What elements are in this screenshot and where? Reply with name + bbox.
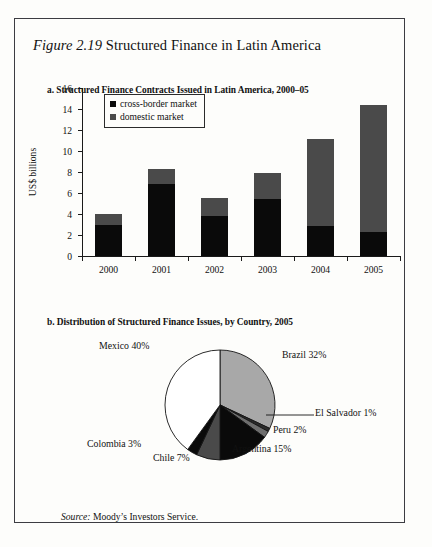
x-tick-label: 2000 <box>99 264 118 275</box>
bar-segment-domestic <box>254 173 281 199</box>
y-axis-title: US$ billions <box>27 148 38 196</box>
x-tick-mark <box>347 256 348 261</box>
bar-segment-cross-border <box>360 232 387 256</box>
x-tick-label: 2004 <box>311 264 330 275</box>
y-tick-mark: 2 <box>78 235 82 236</box>
y-tick-label: 12 <box>62 125 72 136</box>
y-tick-mark: 16 <box>78 88 82 89</box>
y-axis-line <box>82 88 83 256</box>
bar-chart-panel-a: US$ billions 0246810121416 2000200120022… <box>14 80 405 290</box>
x-tick-label: 2001 <box>152 264 171 275</box>
legend-item-domestic: domestic market <box>110 111 197 124</box>
pie-svg <box>14 312 405 477</box>
source-text: Moody’s Investors Service. <box>93 511 198 522</box>
y-tick-label: 16 <box>62 83 72 94</box>
pie-label-mexico: Mexico 40% <box>99 340 149 351</box>
figure-number: Figure 2.19 <box>33 37 102 53</box>
source-label: Source: <box>61 511 90 522</box>
bar-plot-area: 0246810121416 200020012002200320042005 c… <box>82 88 400 256</box>
x-tick-mark <box>241 256 242 261</box>
source-note: Source: Moody’s Investors Service. <box>61 511 198 522</box>
bar-segment-domestic <box>307 139 334 225</box>
pie-label-colombia: Colombia 3% <box>87 438 141 449</box>
pie-label-brazil: Brazil 32% <box>282 349 326 360</box>
pie-label-el-salvador: El Salvador 1% <box>315 407 377 418</box>
x-tick-mark <box>82 256 83 261</box>
bar-segment-cross-border <box>307 226 334 256</box>
y-tick-label: 8 <box>67 167 72 178</box>
bar-segment-cross-border <box>148 184 175 256</box>
y-tick-label: 6 <box>67 188 72 199</box>
legend-label-domestic: domestic market <box>120 111 184 124</box>
y-tick-mark: 8 <box>78 172 82 173</box>
legend-item-cross-border: cross-border market <box>110 98 197 111</box>
figure-title-text: Structured Finance in Latin America <box>106 37 321 53</box>
y-tick-label: 2 <box>67 230 72 241</box>
bar-column <box>360 88 387 256</box>
pie-label-argentina: Argentina 15% <box>232 443 291 454</box>
bar-segment-domestic <box>201 198 228 216</box>
y-tick-mark: 14 <box>78 109 82 110</box>
x-tick-mark <box>135 256 136 261</box>
bar-column <box>201 88 228 256</box>
chart-legend: cross-border market domestic market <box>104 94 205 128</box>
legend-swatch-domestic-icon <box>110 114 116 120</box>
y-tick-mark: 6 <box>78 193 82 194</box>
y-tick-label: 0 <box>67 251 72 262</box>
bar-segment-domestic <box>360 105 387 232</box>
x-tick-label: 2003 <box>258 264 277 275</box>
pie-label-peru: Peru 2% <box>273 424 306 435</box>
x-tick-mark <box>400 256 401 261</box>
pie-label-chile: Chile 7% <box>153 452 190 463</box>
x-tick-mark <box>294 256 295 261</box>
bar-segment-domestic <box>95 214 122 225</box>
y-tick-label: 4 <box>67 209 72 220</box>
bar-segment-domestic <box>148 169 175 184</box>
legend-swatch-cross-border-icon <box>110 101 116 107</box>
bar-column <box>254 88 281 256</box>
y-tick-label: 14 <box>62 104 72 115</box>
bar-segment-cross-border <box>254 199 281 256</box>
bar-segment-cross-border <box>201 216 228 256</box>
y-tick-mark: 12 <box>78 130 82 131</box>
x-tick-label: 2005 <box>364 264 383 275</box>
y-tick-mark: 10 <box>78 151 82 152</box>
pie-chart-panel-b: Brazil 32%El Salvador 1%Peru 2%Argentina… <box>14 312 405 477</box>
x-tick-mark <box>188 256 189 261</box>
y-tick-mark: 4 <box>78 214 82 215</box>
legend-label-cross-border: cross-border market <box>120 98 197 111</box>
y-tick-label: 10 <box>62 146 72 157</box>
figure-page: Figure 2.19 Structured Finance in Latin … <box>0 0 432 547</box>
figure-title: Figure 2.19 Structured Finance in Latin … <box>33 37 321 54</box>
bar-column <box>307 88 334 256</box>
bar-segment-cross-border <box>95 225 122 257</box>
x-tick-label: 2002 <box>205 264 224 275</box>
